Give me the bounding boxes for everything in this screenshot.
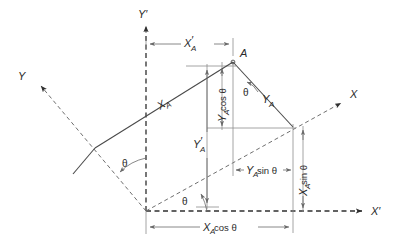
- rotation-diagram: Y′ X′ Y X X A: [0, 0, 402, 243]
- y-prime-axis-label: Y′: [138, 8, 148, 20]
- dimension-x-a-sin-theta: X A sin θ: [297, 130, 312, 208]
- point-a-label: A: [239, 47, 247, 59]
- y-prime-a-label-sub: A: [199, 145, 205, 154]
- y-a-cos-label-suffix: cos θ: [217, 88, 228, 111]
- y-a-vector-label: Y A: [262, 93, 274, 109]
- x-a-vector-label: X A: [154, 95, 173, 115]
- y-a-sin-theta-label: Y A sin θ: [246, 164, 277, 179]
- x-axis: [146, 103, 341, 211]
- point-a-group: A: [231, 47, 247, 64]
- construction-lines-group: [95, 40, 303, 234]
- y-a-vector-label-sub: A: [268, 100, 274, 109]
- dimension-x-a-cos-theta: X A cos θ: [150, 216, 293, 236]
- x-axis-label: X: [349, 88, 358, 100]
- y-axis-label: Y: [18, 70, 26, 82]
- x-prime-axis-label: X′: [370, 205, 381, 217]
- x-a-foot-connector: [73, 148, 95, 174]
- vectors-group: [73, 62, 293, 174]
- dimension-y-a-cos-theta: Y A cos θ: [216, 69, 231, 126]
- x-prime-a-label: X ′ A: [183, 34, 196, 53]
- y-prime-a-label: Y ′ A: [193, 135, 205, 154]
- dimension-y-a-sin-theta: Y A sin θ: [236, 164, 291, 179]
- angles-group: θ θ θ: [120, 82, 258, 211]
- x-a-sin-label-suffix: sin θ: [298, 165, 309, 185]
- x-a-cos-theta-label: X A cos θ: [202, 221, 237, 236]
- theta-x-axes-arc: [201, 194, 207, 211]
- axis-labels-group: Y′ X′ Y X: [18, 8, 381, 217]
- y-a-sin-label-suffix: sin θ: [257, 165, 277, 176]
- diagram-canvas: Y′ X′ Y X X A: [0, 0, 402, 243]
- dimension-x-prime-a: X ′ A: [150, 34, 233, 56]
- x-a-sin-theta-label: X A sin θ: [297, 165, 312, 197]
- theta-x-axes-label: θ: [182, 196, 188, 207]
- theta-at-a-label: θ: [243, 87, 249, 98]
- y-a-cos-theta-label: Y A cos θ: [216, 88, 231, 122]
- theta-y-axes-label: θ: [122, 158, 128, 169]
- vector-labels-group: X A Y A: [154, 93, 274, 115]
- dimension-y-prime-a: Y ′ A: [193, 70, 207, 203]
- axes-group: [41, 26, 362, 211]
- y-axis: [41, 86, 146, 211]
- x-a-cos-label-suffix: cos θ: [214, 222, 237, 233]
- x-prime-a-label-sub: A: [190, 44, 196, 53]
